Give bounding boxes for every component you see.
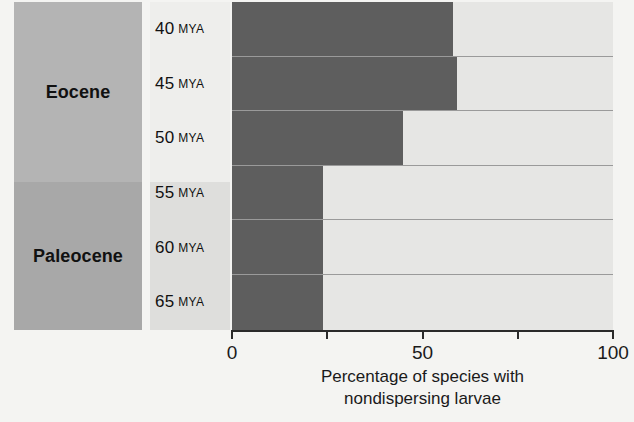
- epoch-band-eocene: Eocene: [14, 2, 142, 182]
- epoch-band-paleocene: Paleocene: [14, 182, 142, 330]
- bar: [232, 57, 457, 111]
- mya-value: 50: [155, 128, 174, 148]
- mya-unit: MYA: [178, 22, 204, 36]
- mya-tick-label: 60 MYA: [150, 220, 230, 275]
- bar-row: [232, 275, 613, 330]
- bar-row: [232, 2, 613, 57]
- bar: [232, 166, 323, 220]
- x-axis-tick-label: 0: [227, 342, 238, 364]
- bar-row: [232, 57, 613, 112]
- bar-row: [232, 111, 613, 166]
- x-axis-tick: [517, 330, 519, 339]
- bar: [232, 111, 403, 165]
- x-axis: 0 50 100: [232, 330, 613, 331]
- chart-figure: Eocene Paleocene 40 MYA 45 MYA 50 MYA 55…: [0, 0, 634, 422]
- x-axis-tick: [422, 330, 424, 339]
- epoch-column: Eocene Paleocene: [14, 2, 142, 330]
- bar: [232, 275, 323, 330]
- bar: [232, 2, 453, 56]
- mya-value: 45: [155, 74, 174, 94]
- mya-tick-label: 65 MYA: [150, 275, 230, 330]
- x-axis-title: Percentage of species with nondispersing…: [232, 366, 613, 410]
- mya-tick-label: 40 MYA: [150, 2, 230, 57]
- bar-row: [232, 166, 613, 221]
- x-axis-tick: [231, 330, 233, 339]
- mya-tick-label: 55 MYA: [150, 166, 230, 221]
- mya-axis-column: 40 MYA 45 MYA 50 MYA 55 MYA 60 MYA 65 MY…: [150, 2, 230, 330]
- mya-value: 55: [155, 183, 174, 203]
- plot-area: [232, 2, 613, 330]
- x-axis-title-line1: Percentage of species with: [232, 366, 613, 388]
- epoch-label-eocene: Eocene: [46, 82, 111, 103]
- mya-tick-label: 50 MYA: [150, 111, 230, 166]
- epoch-label-paleocene: Paleocene: [33, 246, 123, 267]
- x-axis-tick: [612, 330, 614, 339]
- bar: [232, 220, 323, 274]
- x-axis-tick-label: 100: [597, 342, 629, 364]
- x-axis-title-line2: nondispersing larvae: [232, 388, 613, 410]
- mya-unit: MYA: [178, 295, 204, 309]
- mya-unit: MYA: [178, 186, 204, 200]
- mya-unit: MYA: [178, 77, 204, 91]
- mya-value: 65: [155, 292, 174, 312]
- mya-value: 60: [155, 238, 174, 258]
- mya-unit: MYA: [178, 241, 204, 255]
- x-axis-tick: [326, 330, 328, 339]
- bar-row: [232, 220, 613, 275]
- mya-tick-label: 45 MYA: [150, 57, 230, 112]
- mya-value: 40: [155, 19, 174, 39]
- mya-unit: MYA: [178, 131, 204, 145]
- x-axis-tick-label: 50: [412, 342, 433, 364]
